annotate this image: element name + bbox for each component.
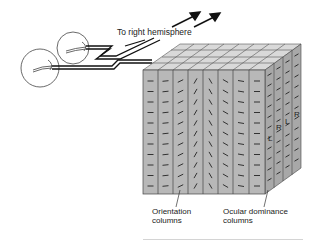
ocular-letter-r1: R — [276, 123, 282, 132]
label-orientation-columns-line1: Orientation — [152, 207, 191, 216]
bottom-divider — [143, 239, 303, 240]
label-ocular-dominance-line2: columns — [223, 216, 253, 225]
ocular-letter-l2: L — [285, 117, 289, 126]
visual-cortex-diagram: To right hemisphere L R L R Orientation … — [0, 0, 318, 244]
left-eye-icon — [21, 49, 59, 87]
arrows-to-right-hemisphere — [172, 12, 220, 27]
right-eye-icon — [57, 32, 89, 64]
label-ocular-dominance-line1: Ocular dominance — [223, 207, 288, 216]
block-front-face — [143, 70, 265, 194]
label-orientation-columns-line2: columns — [152, 216, 182, 225]
ocular-letter-l1: L — [268, 134, 272, 143]
optic-nerve-fibers — [52, 38, 160, 69]
ocular-letter-r2: R — [294, 110, 300, 119]
label-to-right-hemisphere: To right hemisphere — [117, 28, 192, 37]
